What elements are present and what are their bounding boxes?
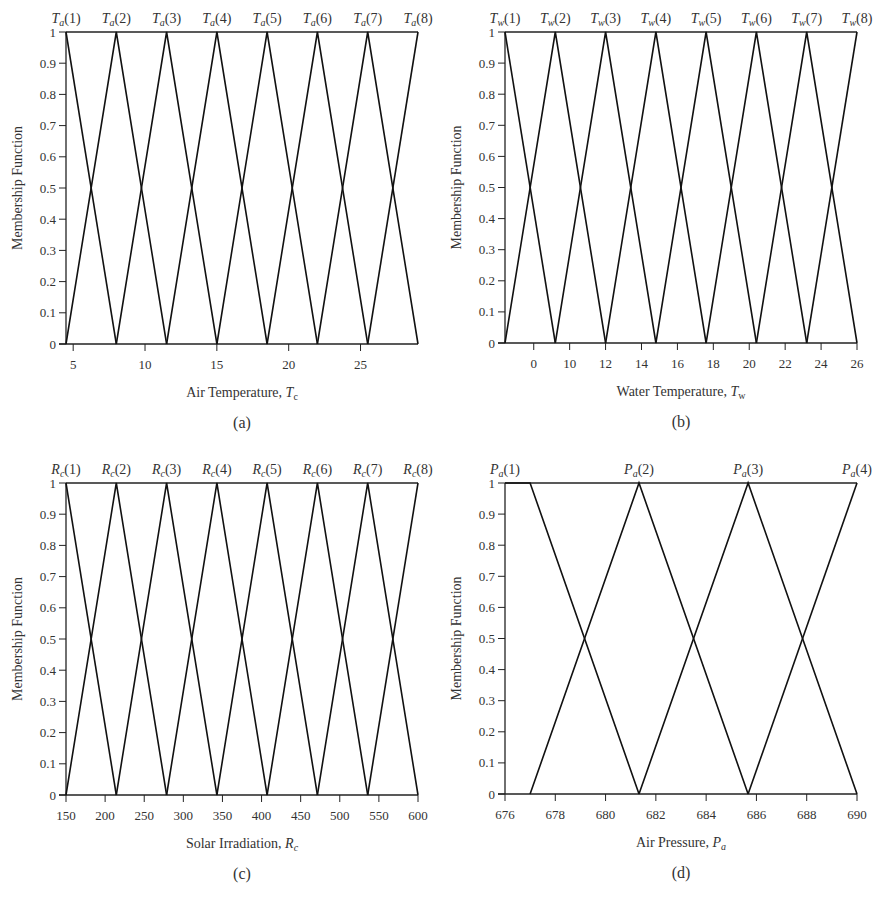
x-tick-label: 500 xyxy=(330,808,350,823)
y-tick-label: 0.7 xyxy=(479,569,496,584)
y-tick-label: 0.5 xyxy=(40,632,56,647)
y-tick-label: 0.2 xyxy=(40,725,56,740)
fuzzy-set-label: Tw(7) xyxy=(791,11,822,28)
y-tick-label: 0.3 xyxy=(479,693,495,708)
y-axis-title: Membership Function xyxy=(449,125,464,249)
y-tick-label: 0.5 xyxy=(40,181,56,196)
y-tick-label: 0.9 xyxy=(479,507,495,522)
y-axis-title: Membership Function xyxy=(10,577,25,701)
x-tick-label: 690 xyxy=(847,807,867,822)
y-tick-label: 1 xyxy=(50,25,57,40)
chart-c: 00.10.20.30.40.50.60.70.80.9115020025030… xyxy=(0,450,441,899)
fuzzy-set-label: Pa(3) xyxy=(732,462,763,479)
x-tick-label: 14 xyxy=(635,356,649,371)
membership-function-line xyxy=(706,32,807,343)
fuzzy-set-label: Pa(1) xyxy=(489,462,520,479)
y-tick-label: 0.4 xyxy=(40,212,57,227)
fuzzy-set-label: Ta(7) xyxy=(353,11,382,28)
x-tick-label: 0 xyxy=(530,356,537,371)
membership-function-line xyxy=(505,483,639,794)
y-axis-title: Membership Function xyxy=(10,126,25,250)
y-tick-label: 0.3 xyxy=(40,694,56,709)
y-axis-title: Membership Function xyxy=(449,576,464,700)
y-tick-label: 0.3 xyxy=(40,243,56,258)
fuzzy-set-label: Ta(3) xyxy=(152,11,181,28)
fuzzy-set-label: Ta(1) xyxy=(51,11,80,28)
x-tick-label: 250 xyxy=(134,808,154,823)
x-tick-label: 400 xyxy=(252,808,272,823)
fuzzy-set-label: Rc(6) xyxy=(302,462,333,479)
membership-function-line xyxy=(167,32,268,344)
x-tick-label: 150 xyxy=(56,808,76,823)
fuzzy-set-label: Tw(8) xyxy=(842,11,873,28)
fuzzy-set-label: Rc(7) xyxy=(352,462,383,479)
membership-function-line xyxy=(66,32,167,344)
chart-a: 00.10.20.30.40.50.60.70.80.91510152025Ta… xyxy=(0,0,441,450)
y-tick-label: 0.1 xyxy=(479,755,495,770)
x-tick-label: 26 xyxy=(851,356,865,371)
membership-function-line xyxy=(505,32,606,343)
fuzzy-set-label: Ta(5) xyxy=(253,11,282,28)
x-tick-label: 10 xyxy=(139,357,152,372)
x-tick-label: 22 xyxy=(779,356,792,371)
x-tick-label: 18 xyxy=(707,356,720,371)
x-tick-label: 5 xyxy=(70,357,77,372)
membership-function-line xyxy=(606,32,707,343)
x-tick-label: 24 xyxy=(815,356,829,371)
x-tick-label: 682 xyxy=(646,807,666,822)
x-tick-label: 25 xyxy=(354,357,367,372)
x-axis-title: Water Temperature, Tw xyxy=(617,384,747,401)
y-tick-label: 1 xyxy=(489,476,496,491)
x-tick-label: 686 xyxy=(747,807,767,822)
y-tick-label: 0.2 xyxy=(40,274,56,289)
x-tick-label: 600 xyxy=(408,808,428,823)
y-tick-label: 0.1 xyxy=(40,756,56,771)
fuzzy-set-label: Rc(4) xyxy=(201,462,232,479)
y-tick-label: 0.9 xyxy=(40,507,56,522)
y-tick-label: 0.2 xyxy=(479,724,495,739)
y-tick-label: 0.6 xyxy=(40,600,57,615)
membership-function-line xyxy=(530,483,748,794)
membership-function-line xyxy=(555,32,656,343)
membership-function-line xyxy=(656,32,757,343)
y-tick-label: 1 xyxy=(489,25,496,40)
y-tick-label: 0 xyxy=(489,787,496,802)
fuzzy-set-label: Tw(1) xyxy=(490,11,521,28)
y-tick-label: 0 xyxy=(489,336,496,351)
chart-d: 00.10.20.30.40.50.60.70.80.9167667868068… xyxy=(441,450,882,899)
fuzzy-set-label: Rc(2) xyxy=(101,462,132,479)
membership-function-line xyxy=(317,483,418,795)
fuzzy-set-label: Pa(4) xyxy=(841,462,872,479)
fuzzy-set-label: Pa(2) xyxy=(623,462,654,479)
membership-function-line xyxy=(66,483,167,795)
y-tick-label: 0.7 xyxy=(479,118,496,133)
membership-function-line xyxy=(116,483,217,795)
x-tick-label: 678 xyxy=(546,807,566,822)
fuzzy-set-label: Ta(2) xyxy=(102,11,131,28)
y-tick-label: 0.7 xyxy=(40,118,57,133)
membership-function-line xyxy=(317,32,418,344)
y-tick-label: 0.8 xyxy=(40,87,56,102)
x-tick-label: 12 xyxy=(599,356,612,371)
panel-label: (b) xyxy=(672,413,691,431)
x-tick-label: 200 xyxy=(95,808,115,823)
membership-function-line xyxy=(756,32,857,343)
y-tick-label: 0.9 xyxy=(479,56,495,71)
panel-c-solar-irradiation: 00.10.20.30.40.50.60.70.80.9115020025030… xyxy=(0,450,441,899)
y-tick-label: 1 xyxy=(50,476,57,491)
x-tick-label: 550 xyxy=(369,808,389,823)
y-tick-label: 0.1 xyxy=(479,304,495,319)
x-axis-title: Solar Irradiation, Rc xyxy=(186,836,299,853)
x-axis-title: Air Temperature, Tc xyxy=(186,385,298,402)
panel-b-water-temperature: 00.10.20.30.40.50.60.70.80.9101012141618… xyxy=(441,0,882,450)
y-tick-label: 0.8 xyxy=(479,87,495,102)
fuzzy-set-label: Tw(2) xyxy=(540,11,571,28)
fuzzy-set-label: Ta(8) xyxy=(403,11,432,28)
fuzzy-set-label: Ta(4) xyxy=(202,11,231,28)
x-tick-label: 450 xyxy=(291,808,311,823)
panel-label: (a) xyxy=(233,414,251,432)
y-tick-label: 0.9 xyxy=(40,56,56,71)
x-tick-label: 300 xyxy=(174,808,194,823)
y-tick-label: 0.6 xyxy=(479,149,496,164)
y-tick-label: 0.4 xyxy=(40,663,57,678)
